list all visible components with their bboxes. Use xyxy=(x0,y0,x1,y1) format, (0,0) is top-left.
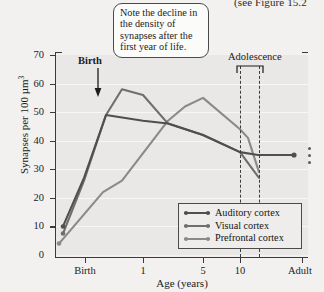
legend-label-auditory-cortex: Auditory cortex xyxy=(215,207,280,220)
legend-swatch-prefrontal-cortex xyxy=(184,234,210,243)
birth-annotation-label: Birth xyxy=(78,55,102,66)
adolescence-annotation-label: Adolescence xyxy=(228,51,282,62)
legend-item-auditory-cortex[interactable]: Auditory cortex xyxy=(184,207,297,220)
callout-note: Note the decline in the density of synap… xyxy=(113,3,209,58)
chart-legend: Auditory cortex Visual cortex Prefrontal… xyxy=(178,203,302,249)
birth-arrow-icon xyxy=(93,68,103,98)
figure-panel: (see Figure 15.2 70 60 50 40 30 20 10 0 … xyxy=(0,0,324,292)
legend-label-visual-cortex: Visual cortex xyxy=(215,220,269,233)
adolescence-bracket-icon xyxy=(236,64,264,74)
legend-item-prefrontal-cortex[interactable]: Prefrontal cortex xyxy=(184,232,297,245)
legend-swatch-visual-cortex xyxy=(184,221,210,230)
legend-item-visual-cortex[interactable]: Visual cortex xyxy=(184,220,297,233)
legend-label-prefrontal-cortex: Prefrontal cortex xyxy=(215,232,284,245)
legend-swatch-auditory-cortex xyxy=(184,209,210,218)
